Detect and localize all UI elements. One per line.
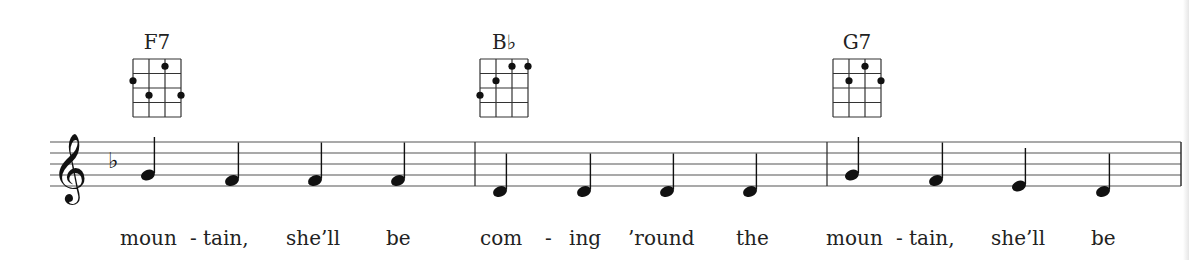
quarter-note-F4 — [306, 143, 323, 189]
lyric-syllable: tain, — [909, 226, 955, 250]
finger-dot — [492, 77, 499, 84]
quarter-note-F4 — [927, 143, 944, 189]
lyric-syllable: the — [736, 226, 769, 250]
sheet-music-page: F7B♭G7 𝄞 ♭ moun-tain,she’llbecom-ing’rou… — [0, 0, 1189, 260]
quarter-note-D4 — [658, 154, 675, 200]
svg-text:♭: ♭ — [108, 148, 118, 173]
flat-key-signature-icon: ♭ — [108, 148, 118, 173]
chord-diagram-F7: F7 — [129, 30, 184, 117]
finger-dot — [177, 92, 184, 99]
lyric-syllable: be — [386, 226, 411, 250]
quarter-note-F4 — [223, 143, 240, 189]
notes — [139, 137, 1111, 199]
lyric-syllable: - — [545, 226, 552, 250]
lyric-syllable: - — [190, 226, 197, 250]
finger-dot — [861, 63, 868, 70]
finger-dot — [161, 63, 168, 70]
quarter-note-D4 — [741, 154, 758, 200]
treble-clef-icon: 𝄞 — [52, 132, 87, 205]
quarter-note-G4 — [843, 137, 860, 183]
finger-dot — [524, 63, 531, 70]
lyric-syllable: be — [1091, 226, 1116, 250]
svg-text:𝄞: 𝄞 — [52, 132, 87, 205]
quarter-note-E4 — [1010, 148, 1027, 194]
quarter-note-D4 — [575, 154, 592, 200]
quarter-note-F4 — [389, 143, 406, 189]
finger-dot — [129, 77, 136, 84]
chord-diagram-B♭: B♭ — [476, 30, 531, 117]
lyric-syllable: com — [480, 226, 522, 250]
lyric-syllable: moun — [826, 226, 883, 250]
finger-dot — [845, 77, 852, 84]
chord-diagrams: F7B♭G7 — [129, 30, 884, 117]
lyric-syllable: tain, — [203, 226, 249, 250]
music-score: F7B♭G7 𝄞 ♭ moun-tain,she’llbecom-ing’rou… — [0, 0, 1189, 260]
quarter-note-G4 — [139, 137, 156, 183]
lyrics: moun-tain,she’llbecom-ing’roundthemoun-t… — [120, 226, 1116, 250]
lyric-syllable: ’round — [628, 226, 695, 250]
lyric-syllable: moun — [120, 226, 177, 250]
page-edge-shadow — [1183, 0, 1189, 260]
chord-label: G7 — [843, 30, 872, 54]
lyric-syllable: she’ll — [286, 226, 340, 250]
lyric-syllable: ing — [569, 226, 601, 250]
quarter-note-D4 — [1094, 154, 1111, 200]
finger-dot — [476, 92, 483, 99]
finger-dot — [508, 63, 515, 70]
lyric-syllable: - — [896, 226, 903, 250]
staff — [50, 142, 1181, 186]
chord-label: F7 — [144, 30, 171, 54]
chord-label: B♭ — [492, 30, 516, 54]
lyric-syllable: she’ll — [991, 226, 1045, 250]
chord-diagram-G7: G7 — [833, 30, 885, 117]
finger-dot — [145, 92, 152, 99]
quarter-note-D4 — [491, 154, 508, 200]
finger-dot — [877, 77, 884, 84]
